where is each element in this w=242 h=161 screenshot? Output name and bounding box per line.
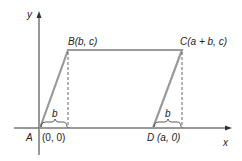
point-b-label: B(b, c) <box>68 36 97 47</box>
parallelogram-abcd <box>40 50 182 128</box>
brace-left <box>41 119 67 127</box>
brace-right-label: b <box>165 108 171 119</box>
parallelogram-diagram: y x B(b, c) C(a + b, c) A (0, 0) D (a, 0… <box>0 0 242 161</box>
point-a-coords: (0, 0) <box>42 132 65 143</box>
brace-left-label: b <box>52 108 58 119</box>
point-c-label: C(a + b, c) <box>180 36 227 47</box>
x-axis-label: x <box>222 137 229 148</box>
point-d-label: D (a, 0) <box>147 132 180 143</box>
y-axis-arrow-icon <box>37 11 42 18</box>
brace-right <box>154 119 181 127</box>
x-axis-arrow-icon <box>225 126 232 131</box>
y-axis-label: y <box>26 9 33 20</box>
point-a-name: A <box>25 132 33 143</box>
